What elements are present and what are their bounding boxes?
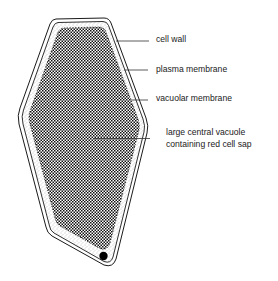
label-vacuole-line2: containing red cell sap bbox=[166, 139, 252, 150]
label-plasma-membrane: plasma membrane bbox=[156, 64, 227, 75]
nucleus bbox=[99, 252, 107, 260]
label-vacuole-line1: large central vacuole bbox=[166, 127, 245, 138]
label-vacuolar-membrane: vacuolar membrane bbox=[156, 93, 232, 104]
label-cell-wall: cell wall bbox=[156, 34, 186, 45]
